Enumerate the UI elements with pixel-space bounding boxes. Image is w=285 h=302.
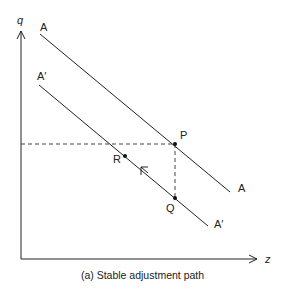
line-a-end-label: A <box>238 182 246 194</box>
point-p-label: P <box>180 129 187 141</box>
figure-caption: (a) Stable adjustment path <box>0 269 285 281</box>
z-axis-label: z <box>264 253 271 265</box>
line-a-prime-start-label: A′ <box>37 70 46 82</box>
adjustment-diagram: q z A A A′ A′ P Q R <box>0 0 285 302</box>
point-q <box>173 196 177 200</box>
point-r-label: R <box>113 153 121 165</box>
line-a-start-label: A <box>40 21 48 33</box>
point-r <box>123 154 127 158</box>
line-a <box>40 34 230 192</box>
q-axis-label: q <box>17 14 24 26</box>
line-a-prime-end-label: A′ <box>214 218 223 230</box>
point-q-label: Q <box>166 202 175 214</box>
point-p <box>173 142 177 146</box>
